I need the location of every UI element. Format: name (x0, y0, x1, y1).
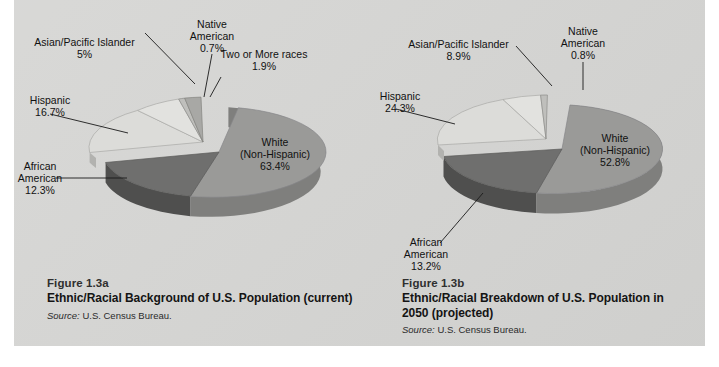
slice-hispanic-side (90, 153, 96, 169)
figure-b: Asian/Pacific Islander 8.9% Native Ameri… (380, 0, 719, 346)
label-two-or-more-races: Two or More races 1.9% (202, 48, 326, 72)
figure-b-source: Source: U.S. Census Bureau. (402, 323, 719, 336)
label-asian-pacific-islander-b: Asian/Pacific Islander 8.9% (396, 38, 521, 62)
figure-b-source-prefix: Source: (402, 324, 435, 335)
label-white-non-hispanic: White (Non-Hispanic) 63.4% (220, 136, 330, 173)
figure-b-title: Ethnic/Racial Breakdown of U.S. Populati… (402, 291, 687, 320)
label-native-american-b: Native American 0.8% (533, 25, 633, 62)
figure-b-chart: Asian/Pacific Islander 8.9% Native Ameri… (380, 0, 719, 272)
label-asian-pacific-islander: Asian/Pacific Islander 5% (22, 36, 147, 60)
label-white-non-hispanic-b: White (Non-Hispanic) 52.8% (560, 132, 670, 169)
figure-a-source: Source: U.S. Census Bureau. (47, 309, 399, 322)
figure-a-source-text: U.S. Census Bureau. (82, 310, 171, 321)
slice-hispanic-side-b (438, 145, 444, 161)
leader-line-twomore (210, 77, 221, 97)
figure-a-title: Ethnic/Racial Background of U.S. Populat… (47, 291, 367, 306)
label-hispanic: Hispanic 16.7% (6, 94, 94, 118)
figure-a-source-prefix: Source: (47, 310, 80, 321)
figure-a: Asian/Pacific Islander 5% Native America… (14, 0, 366, 346)
label-hispanic-b: Hispanic 24.3% (356, 90, 444, 114)
label-african-american: African American 12.3% (2, 160, 78, 197)
label-african-american-b: African American 13.2% (388, 236, 464, 273)
figure-a-chart: Asian/Pacific Islander 5% Native America… (14, 0, 366, 272)
figure-b-number: Figure 1.3b (402, 276, 719, 290)
figure-page: Asian/Pacific Islander 5% Native America… (0, 0, 719, 367)
figure-a-number: Figure 1.3a (47, 276, 399, 290)
figure-b-caption: Figure 1.3b Ethnic/Racial Breakdown of U… (380, 276, 719, 336)
figure-a-caption: Figure 1.3a Ethnic/Racial Background of … (14, 276, 399, 322)
figure-b-source-text: U.S. Census Bureau. (437, 324, 526, 335)
